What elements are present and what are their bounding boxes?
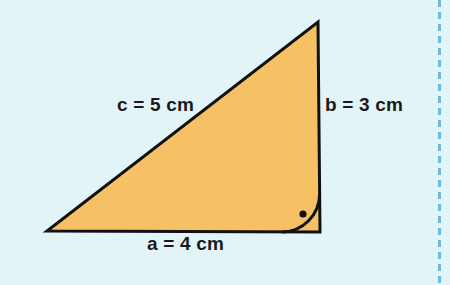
figure-root: c = 5 cm b = 3 cm a = 4 cm — [0, 0, 450, 285]
horizontal-side-label: a = 4 cm — [147, 234, 224, 253]
hypotenuse-side-label: c = 5 cm — [117, 95, 194, 114]
triangle-diagram-svg — [0, 0, 450, 285]
right-angle-dot-icon — [299, 210, 306, 217]
vertical-side-label: b = 3 cm — [325, 95, 403, 114]
